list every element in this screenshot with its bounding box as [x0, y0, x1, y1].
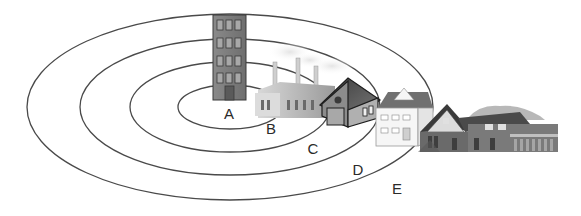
zone-label-a: A [224, 106, 234, 121]
zone-label-c: C [308, 141, 319, 156]
diagram-canvas [0, 0, 581, 216]
zone-label-e: E [392, 181, 402, 196]
zone-label-d: D [353, 162, 364, 177]
office-tower-icon [213, 15, 246, 100]
zone-label-b: B [266, 121, 276, 136]
small-house-icon [320, 78, 380, 127]
large-house-icon [418, 104, 558, 152]
concentric-zone-diagram: A B C D E [0, 0, 581, 216]
